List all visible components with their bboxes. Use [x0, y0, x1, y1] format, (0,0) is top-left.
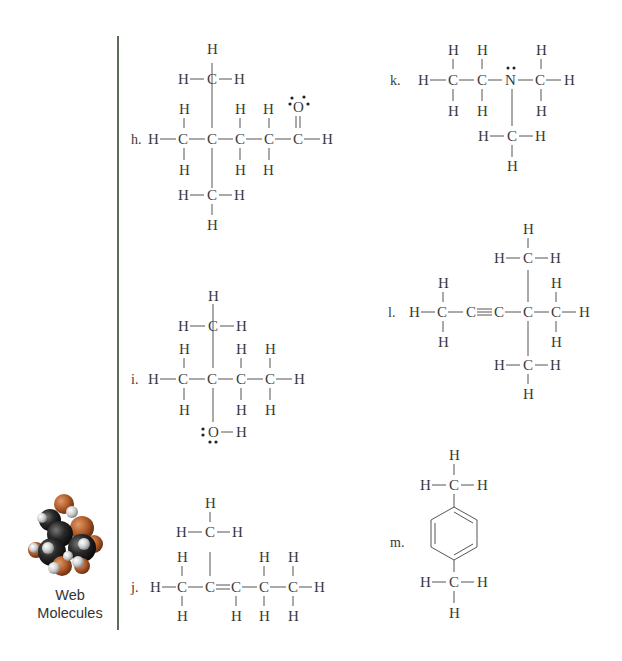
- atom-symbol: H: [231, 608, 242, 624]
- atom-symbol: C: [494, 304, 504, 320]
- atom-symbol: C: [448, 72, 458, 88]
- structures-canvas: h. H C C C C C H H H H C H H H C H H: [0, 0, 622, 661]
- atom-symbol: H: [148, 371, 159, 387]
- atom-symbol: H: [288, 608, 299, 624]
- atom-symbol: H: [494, 357, 505, 373]
- lone-pair-dot: [214, 440, 217, 443]
- atom-symbol: C: [264, 131, 274, 147]
- atom-symbol: C: [265, 371, 275, 387]
- atom-symbol: C: [205, 579, 215, 595]
- atom-symbol: H: [438, 275, 449, 291]
- atom-symbol: N: [505, 72, 516, 88]
- lone-pair-dot: [208, 440, 211, 443]
- lone-pair-dot: [302, 95, 305, 98]
- lone-pair-dot: [201, 427, 204, 430]
- structure-label-i: i.: [131, 372, 138, 387]
- lone-pair-dot: [288, 102, 291, 105]
- structure-label-j: j.: [130, 580, 138, 595]
- atom-symbol: H: [550, 357, 561, 373]
- atom-symbol: O: [293, 99, 304, 115]
- atom-symbol: C: [208, 318, 218, 334]
- atom-symbol: C: [449, 477, 459, 493]
- atom-symbol: H: [536, 42, 547, 58]
- atom-symbol: H: [208, 288, 219, 304]
- atom-symbol: H: [179, 341, 190, 357]
- atom-symbol: H: [477, 103, 488, 119]
- atom-symbol: H: [314, 579, 325, 595]
- atom-symbol: H: [438, 334, 449, 350]
- atom-symbol: H: [235, 101, 246, 117]
- structure-label-k: k.: [390, 73, 401, 88]
- structure-j: j. H C C C C C H H H H C H H H H H: [130, 495, 325, 624]
- atom-symbol: O: [208, 424, 219, 440]
- atom-symbol: C: [235, 131, 245, 147]
- atom-symbol: H: [288, 549, 299, 565]
- atom-symbol: H: [207, 217, 218, 233]
- atom-symbol: H: [322, 131, 333, 147]
- atom-symbol: H: [207, 41, 218, 57]
- lone-pair-dot: [290, 96, 293, 99]
- atom-symbol: C: [236, 371, 246, 387]
- atom-symbol: C: [231, 579, 241, 595]
- atom-symbol: H: [564, 72, 575, 88]
- atom-symbol: H: [178, 187, 189, 203]
- atom-symbol: C: [205, 524, 215, 540]
- atom-symbol: H: [234, 187, 245, 203]
- atom-symbol: H: [494, 250, 505, 266]
- atom-symbol: H: [236, 402, 247, 418]
- atom-symbol: H: [236, 341, 247, 357]
- atom-symbol: H: [150, 579, 161, 595]
- atom-symbol: C: [259, 579, 269, 595]
- atom-symbol: H: [235, 162, 246, 178]
- structure-label-h: h.: [131, 132, 142, 147]
- atom-symbol: H: [536, 103, 547, 119]
- atom-symbol: H: [176, 524, 187, 540]
- atom-symbol: C: [523, 250, 533, 266]
- atom-symbol: C: [523, 304, 533, 320]
- atom-symbol: H: [178, 318, 189, 334]
- atom-symbol: C: [507, 128, 517, 144]
- lone-pair-dot: [306, 102, 309, 105]
- atom-symbol: H: [263, 101, 274, 117]
- atom-symbol: C: [523, 357, 533, 373]
- atom-symbol: C: [207, 187, 217, 203]
- atom-symbol: C: [178, 131, 188, 147]
- structure-h: h. H C C C C C H H H H C H H H C H H: [131, 41, 333, 233]
- atom-symbol: H: [579, 304, 590, 320]
- bond: [454, 544, 473, 555]
- atom-symbol: H: [551, 334, 562, 350]
- lone-pair-dot: [513, 67, 516, 70]
- structure-label-m: m.: [390, 535, 404, 550]
- atom-symbol: C: [551, 304, 561, 320]
- structure-l: l. H C C C C C H H H H C H H H C H: [388, 221, 590, 402]
- bond: [431, 507, 477, 560]
- atom-symbol: H: [265, 402, 276, 418]
- atom-symbol: H: [420, 574, 431, 590]
- structure-label-l: l.: [388, 305, 395, 320]
- atom-symbol: H: [236, 424, 247, 440]
- atom-symbol: C: [177, 579, 187, 595]
- atom-symbol: H: [449, 447, 460, 463]
- atom-symbol: H: [507, 158, 518, 174]
- bond: [454, 512, 473, 523]
- atom-symbol: C: [437, 304, 447, 320]
- atom-symbol: H: [265, 341, 276, 357]
- atom-symbol: H: [477, 574, 488, 590]
- lone-pair-dot: [201, 433, 204, 436]
- atom-symbol: C: [293, 131, 303, 147]
- atom-symbol: C: [288, 579, 298, 595]
- atom-symbol: C: [207, 131, 217, 147]
- atom-symbol: H: [177, 549, 188, 565]
- atom-symbol: H: [523, 221, 534, 237]
- atom-symbol: C: [477, 72, 487, 88]
- atom-symbol: H: [179, 101, 190, 117]
- atom-symbol: H: [178, 71, 189, 87]
- atom-symbol: H: [448, 42, 459, 58]
- atom-symbol: H: [234, 71, 245, 87]
- atom-symbol: H: [179, 162, 190, 178]
- atom-symbol: H: [448, 103, 459, 119]
- lone-pair-dot: [507, 67, 510, 70]
- atom-symbol: H: [177, 608, 188, 624]
- atom-symbol: H: [449, 605, 460, 621]
- atom-symbol: H: [418, 72, 429, 88]
